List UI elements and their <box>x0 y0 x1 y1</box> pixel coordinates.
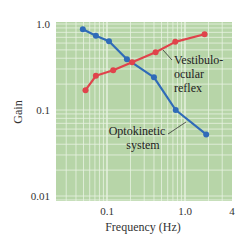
data-point <box>110 67 116 73</box>
vor-label: ocular <box>174 67 204 81</box>
data-point <box>82 87 88 93</box>
data-point <box>151 74 157 80</box>
data-point <box>80 26 86 32</box>
data-point <box>172 39 178 45</box>
y-tick-label: 0.1 <box>36 104 50 116</box>
optokinetic-label: Optokinetic <box>109 124 166 138</box>
gain-vs-frequency-chart: 0.010.11.0 0.11.04 Gain Frequency (Hz) V… <box>0 0 243 246</box>
data-point <box>124 56 130 62</box>
optokinetic-label: system <box>126 138 160 152</box>
data-point <box>203 131 209 137</box>
vor-label: Vestibulo- <box>174 53 223 67</box>
data-point <box>93 33 99 39</box>
data-point <box>129 59 135 65</box>
x-tick-label: 1.0 <box>178 205 192 217</box>
data-point <box>202 31 208 37</box>
y-tick-label: 0.01 <box>31 190 50 202</box>
data-point <box>106 38 112 44</box>
x-tick-label: 4 <box>229 205 235 217</box>
x-axis-ticks: 0.11.04 <box>100 205 235 217</box>
y-axis-label: Gain <box>11 100 25 123</box>
data-point <box>173 107 179 113</box>
vor-label: reflex <box>174 81 202 95</box>
data-point <box>153 49 159 55</box>
y-tick-label: 1.0 <box>36 18 50 30</box>
y-axis-ticks: 0.010.11.0 <box>31 18 51 202</box>
x-axis-label: Frequency (Hz) <box>105 220 181 234</box>
data-point <box>93 73 99 79</box>
x-tick-label: 0.1 <box>100 205 114 217</box>
